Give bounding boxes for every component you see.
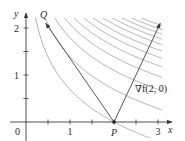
level-curve	[28, 0, 167, 27]
level-curves	[28, 0, 167, 141]
point-q-label: Q	[40, 9, 48, 20]
x-tick-label: 3	[156, 126, 161, 137]
point-p-label: P	[110, 127, 117, 138]
y-tick-label: 2	[14, 23, 19, 34]
level-curve-diagram: 01312xyPQ∇f(2, 0)	[0, 0, 185, 141]
y-tick-label: 1	[14, 70, 19, 81]
x-axis-label: x	[167, 124, 173, 135]
level-curve	[28, 0, 167, 92]
level-curve	[28, 0, 167, 36]
origin-label: 0	[15, 126, 20, 137]
level-curve	[28, 0, 167, 112]
pq-vector	[46, 23, 114, 122]
gradient-vector	[114, 23, 160, 122]
level-curve	[28, 0, 167, 79]
gradient-label: ∇f(2, 0)	[135, 83, 167, 95]
level-curve	[28, 0, 167, 46]
x-tick-label: 1	[68, 126, 73, 137]
y-axis-label: y	[13, 8, 19, 19]
vectors	[46, 23, 160, 124]
point-p-dot	[112, 120, 116, 124]
level-curve	[28, 0, 167, 60]
